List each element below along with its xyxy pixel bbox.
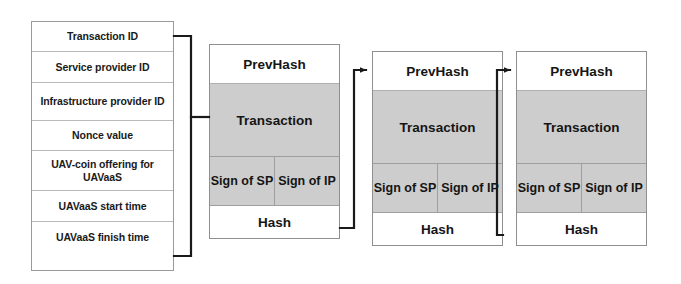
block-hash-row: Hash [210, 205, 339, 238]
block-sign-sp-label: Sign of SP [211, 174, 274, 189]
table-row: Infrastructure provider ID [32, 83, 173, 121]
block-hash-row: Hash [517, 212, 646, 245]
blockchain-block-2: PrevHash Transaction Sign of SP Sign of … [372, 51, 503, 246]
block-transaction-label: Transaction [544, 120, 620, 135]
block-prevhash-label: PrevHash [243, 57, 305, 72]
block-sign-ip-cell: Sign of IP [274, 157, 339, 205]
block-sign-ip-cell: Sign of IP [581, 164, 646, 212]
block-signatures-row: Sign of SP Sign of IP [517, 163, 646, 212]
tx-field-label: Nonce value [72, 129, 133, 142]
tx-field-label: UAVaaS start time [59, 200, 147, 213]
connector-block1-to-block2 [340, 70, 366, 228]
tx-field-label: UAVaaS finish time [56, 231, 149, 244]
transaction-fields-table: Transaction ID Service provider ID Infra… [31, 21, 174, 271]
table-row: UAV-coin offering for UAVaaS [32, 151, 173, 191]
block-prevhash-label: PrevHash [406, 64, 468, 79]
block-prevhash-row: PrevHash [210, 45, 339, 83]
tx-field-label: Transaction ID [67, 30, 138, 43]
block-prevhash-row: PrevHash [517, 52, 646, 90]
block-hash-label: Hash [258, 215, 291, 230]
block-transaction-row: Transaction [373, 90, 502, 163]
block-prevhash-row: PrevHash [373, 52, 502, 90]
table-row: UAVaaS start time [32, 191, 173, 222]
table-row: Nonce value [32, 121, 173, 151]
block-sign-ip-label: Sign of IP [278, 174, 336, 189]
block-sign-sp-cell: Sign of SP [373, 164, 437, 212]
tx-field-label: Infrastructure provider ID [40, 95, 164, 108]
tx-field-label: Service provider ID [56, 61, 150, 74]
table-row: Service provider ID [32, 52, 173, 83]
block-sign-sp-cell: Sign of SP [210, 157, 274, 205]
block-prevhash-label: PrevHash [550, 64, 612, 79]
blockchain-block-1: PrevHash Transaction Sign of SP Sign of … [209, 44, 340, 239]
block-sign-ip-label: Sign of IP [441, 181, 499, 196]
blockchain-block-3: PrevHash Transaction Sign of SP Sign of … [516, 51, 647, 246]
block-signatures-row: Sign of SP Sign of IP [210, 156, 339, 205]
tx-field-label: UAV-coin offering for UAVaaS [34, 158, 171, 184]
table-row: UAVaaS finish time [32, 222, 173, 253]
block-transaction-row: Transaction [517, 90, 646, 163]
blockchain-diagram: Transaction ID Service provider ID Infra… [0, 0, 681, 284]
block-transaction-row: Transaction [210, 83, 339, 156]
block-transaction-label: Transaction [400, 120, 476, 135]
block-sign-ip-label: Sign of IP [585, 181, 643, 196]
transaction-fields-brace [174, 36, 209, 256]
block-sign-sp-label: Sign of SP [374, 181, 437, 196]
table-row: Transaction ID [32, 22, 173, 52]
block-hash-label: Hash [421, 222, 454, 237]
block-transaction-label: Transaction [237, 113, 313, 128]
block-hash-label: Hash [565, 222, 598, 237]
block-sign-sp-label: Sign of SP [518, 181, 581, 196]
block-signatures-row: Sign of SP Sign of IP [373, 163, 502, 212]
block-sign-ip-cell: Sign of IP [437, 164, 502, 212]
block-hash-row: Hash [373, 212, 502, 245]
block-sign-sp-cell: Sign of SP [517, 164, 581, 212]
